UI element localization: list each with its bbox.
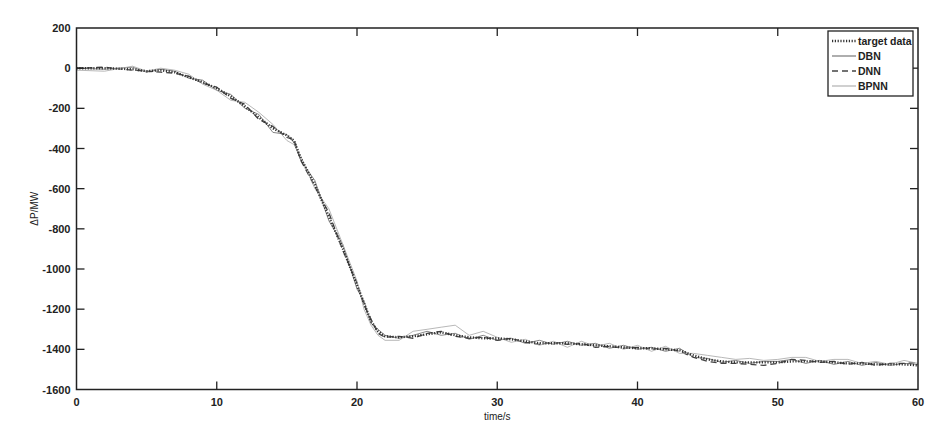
series-dbn	[77, 67, 919, 365]
series-target-data	[77, 68, 919, 365]
y-tick-label: -800	[48, 223, 70, 235]
axes-frame	[77, 28, 919, 390]
x-tick-label: 60	[912, 396, 924, 408]
series-bpnn	[77, 66, 919, 364]
x-axis-label: time/s	[484, 411, 511, 422]
y-tick-label: 200	[52, 22, 70, 34]
y-tick-label: 0	[64, 62, 70, 74]
legend-label: DBN	[858, 50, 881, 62]
y-tick-label: -1200	[42, 303, 70, 315]
series-dnn	[77, 67, 919, 365]
legend-label: target data	[858, 35, 912, 47]
legend: target dataDBNDNNBPNN	[828, 31, 913, 96]
y-tick-label: -1600	[42, 384, 70, 396]
y-axis-label: ΔP/MW	[29, 191, 40, 225]
legend-label: BPNN	[858, 80, 888, 92]
x-tick-label: 50	[772, 396, 784, 408]
y-tick-label: -600	[48, 183, 70, 195]
x-tick-label: 0	[73, 396, 79, 408]
x-tick-label: 20	[351, 396, 363, 408]
y-tick-label: -1400	[42, 343, 70, 355]
y-tick-label: -1000	[42, 263, 70, 275]
plot-area	[77, 66, 919, 365]
y-tick-label: -400	[48, 143, 70, 155]
x-tick-label: 30	[491, 396, 503, 408]
y-axis: 2000-200-400-600-800-1000-1200-1400-1600	[42, 22, 918, 396]
x-tick-label: 10	[211, 396, 223, 408]
x-axis: 0102030405060	[73, 28, 924, 408]
legend-label: DNN	[858, 65, 881, 77]
x-tick-label: 40	[631, 396, 643, 408]
line-chart: 0102030405060 2000-200-400-600-800-1000-…	[0, 0, 951, 440]
y-tick-label: -200	[48, 102, 70, 114]
chart-root: 0102030405060 2000-200-400-600-800-1000-…	[0, 0, 951, 440]
